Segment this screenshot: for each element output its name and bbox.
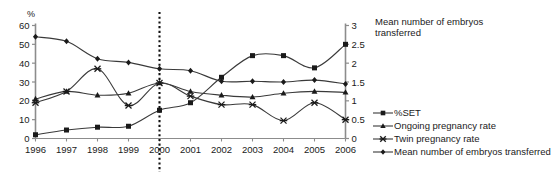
legend-item[interactable]: Mean number of embryos transferred [372,145,556,158]
y-axis-right-tick-label: 0 [352,133,357,144]
marker-square [343,42,348,47]
marker-square [126,124,131,129]
chart-figure: % Mean number of embryos transferred 010… [0,0,556,184]
marker-diamond [250,78,255,84]
marker-cross [311,100,319,106]
marker-cross [218,102,226,108]
marker-diamond [281,79,286,85]
marker-cross [125,103,133,109]
marker-diamond [157,66,162,72]
legend-item[interactable]: Ongoing pregnancy rate [372,119,556,132]
y-axis-left-tick-label: 60 [19,20,30,31]
legend-marker-diamond-icon [372,146,394,158]
series-ongoing-pregnancy-rate [33,80,349,101]
x-axis-tick-label: 2004 [273,144,294,155]
marker-cross [380,136,387,142]
series-line [36,69,346,121]
y-axis-left-tick-label: 0 [24,133,29,144]
y-axis-right-tick-label: 1.5 [352,77,365,88]
y-axis-left-tick-label: 50 [19,39,30,50]
marker-diamond [188,68,193,74]
marker-diamond [95,56,100,62]
marker-square [188,100,193,105]
marker-square [64,128,69,133]
legend-item-label: %SET [394,107,421,119]
series-twin-pregnancy-rate [32,66,350,124]
y-axis-right-tick-label: 1 [352,95,357,106]
x-axis-tick-label: 2006 [335,144,356,155]
marker-cross [187,93,195,99]
legend-marker-square-icon [372,107,394,119]
y-axis-right-tick-label: 2 [352,58,357,69]
marker-square [95,125,100,130]
legend-item-label: Ongoing pregnancy rate [394,120,496,132]
y-axis-right-tick-label: 0.5 [352,114,365,125]
legend-item[interactable]: %SET [372,106,556,119]
marker-cross [249,102,257,108]
y-axis-right-tick-label: 3 [352,20,357,31]
marker-square [381,110,386,115]
legend-marker-cross-icon [372,133,394,145]
marker-square [33,132,38,137]
x-axis-tick-label: 1996 [25,144,46,155]
marker-diamond [381,149,386,155]
y-axis-left-tick-label: 20 [19,95,30,106]
legend-item-label: Twin pregnancy rate [394,133,480,145]
x-axis-tick-label: 1999 [118,144,139,155]
chart-legend: %SETOngoing pregnancy rateTwin pregnancy… [372,106,556,158]
x-axis-tick-label: 1997 [56,144,77,155]
x-axis-tick-label: 2001 [180,144,201,155]
legend-item[interactable]: Twin pregnancy rate [372,132,556,145]
y-axis-left-tick-label: 10 [19,114,30,125]
marker-cross [280,118,288,124]
marker-diamond [312,77,317,83]
y-axis-left-tick-label: 40 [19,58,30,69]
legend-item-label: Mean number of embryos transferred [394,146,551,158]
legend-marker-triangle-icon [372,120,394,132]
x-axis-tick-label: 2002 [211,144,232,155]
x-axis-tick-label: 1998 [87,144,108,155]
x-axis-tick-label: 2003 [242,144,263,155]
marker-square [312,65,317,70]
marker-square [250,53,255,58]
marker-cross [94,66,102,72]
marker-diamond [33,34,38,40]
x-axis-tick-label: 2005 [304,144,325,155]
y-axis-right-tick-label: 2.5 [352,39,365,50]
marker-diamond [126,59,131,65]
y-axis-left-tick-label: 30 [19,77,30,88]
marker-square [157,108,162,113]
marker-square [281,53,286,58]
marker-diamond [64,38,69,44]
